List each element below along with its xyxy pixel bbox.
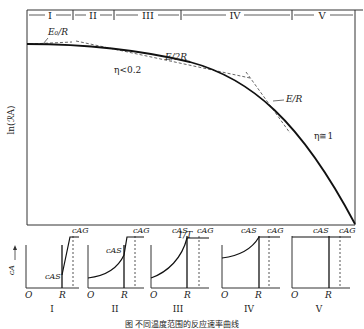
svg-text:I: I — [50, 304, 54, 314]
svg-text:cAS: cAS — [241, 226, 257, 235]
svg-text:O: O — [87, 290, 95, 300]
svg-text:O: O — [25, 290, 33, 300]
diagram-canvas: I II III IV V E₀/R E/2R η<0.2 E/R η≅1 ln… — [0, 0, 364, 329]
annotation-eta-one: η≅1 — [314, 131, 333, 141]
annotation-leader — [273, 100, 284, 101]
svg-text:cAS: cAS — [313, 226, 329, 235]
svg-text:cAG: cAG — [133, 226, 150, 235]
panel-1: cAG cAS O R I — [25, 226, 89, 314]
region-label-5: V — [317, 10, 326, 21]
svg-text:O: O — [150, 290, 158, 300]
svg-text:O: O — [291, 290, 299, 300]
svg-text:cAS: cAS — [106, 246, 122, 255]
annotation-e0r: E₀/R — [47, 27, 68, 37]
arrow-up-icon — [13, 245, 17, 250]
region-label-2: II — [89, 10, 97, 21]
svg-text:II: II — [111, 304, 119, 314]
annotation-er: E/R — [285, 94, 303, 104]
region-label-3: III — [142, 10, 154, 21]
svg-text:R: R — [183, 290, 191, 300]
svg-text:V: V — [315, 304, 323, 314]
svg-text:cAS: cAS — [172, 226, 188, 235]
region-label-4: IV — [229, 10, 241, 21]
rate-curve — [27, 44, 355, 224]
svg-text:R: R — [324, 290, 332, 300]
svg-text:III: III — [173, 304, 184, 314]
region-label-1: I — [48, 10, 52, 21]
svg-text:cAG: cAG — [197, 226, 214, 235]
svg-text:cAS: cAS — [45, 272, 61, 281]
annotation-eta-small: η<0.2 — [114, 65, 141, 75]
svg-text:cAG: cAG — [72, 226, 89, 235]
svg-text:cAG: cAG — [267, 226, 284, 235]
svg-text:R: R — [254, 290, 262, 300]
y-axis-label: ln(ℛA) — [6, 105, 16, 134]
svg-text:R: R — [120, 290, 128, 300]
figure-caption: 图 不同温度范围的反应速率曲线 — [125, 319, 240, 329]
svg-text:cAG: cAG — [339, 226, 356, 235]
panel-y-label: cA — [7, 265, 16, 275]
panel-4: cAG cAS O R IV — [221, 226, 284, 314]
main-chart: I II III IV V E₀/R E/2R η<0.2 E/R η≅1 ln… — [6, 10, 363, 240]
svg-text:O: O — [221, 290, 229, 300]
svg-text:IV: IV — [244, 304, 255, 314]
panel-5: cAG cAS O R V — [291, 226, 356, 314]
annotation-e2r: E/2R — [164, 52, 187, 62]
svg-text:R: R — [58, 290, 66, 300]
panel-2: cAG cAS O R II — [87, 226, 150, 314]
